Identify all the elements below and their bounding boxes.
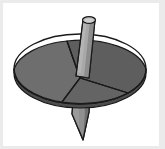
figure-canvas: Three-dimensional line drawing of a spin… [0, 0, 165, 149]
spinning-top-figure: Three-dimensional line drawing of a spin… [0, 0, 165, 149]
shaft-top-cap-inner [85, 18, 94, 22]
